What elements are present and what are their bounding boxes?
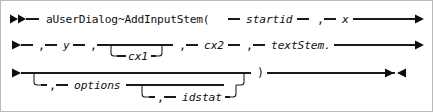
comma-1: , bbox=[317, 12, 324, 26]
options-branch-down-left bbox=[34, 73, 41, 85]
optional-branch-cx1: cx1 bbox=[111, 45, 162, 63]
syntax-diagram-frame: aUserDialog~AddInputStem( startid , x , … bbox=[0, 0, 433, 112]
comma-4: , bbox=[179, 38, 186, 52]
comma-7: , bbox=[157, 90, 164, 104]
optional-param-options: options bbox=[74, 79, 120, 92]
optional-param-idstat: idstat bbox=[182, 91, 222, 104]
row-1-group: aUserDialog~AddInputStem( startid , x bbox=[10, 12, 424, 26]
optional-branch-options: , options , idstat bbox=[34, 73, 244, 104]
optional-param-cx1: cx1 bbox=[128, 50, 148, 63]
param-startid: startid bbox=[246, 13, 293, 26]
close-paren: ) bbox=[257, 66, 264, 80]
param-cx2: cx2 bbox=[204, 39, 224, 52]
cx1-branch-down-left bbox=[111, 45, 117, 56]
row2-start-arrow-icon bbox=[12, 41, 21, 50]
row1-continuation-arrow-icon bbox=[415, 15, 424, 24]
railroad-diagram-canvas: aUserDialog~AddInputStem( startid , x , … bbox=[1, 1, 433, 112]
comma-3: , bbox=[90, 38, 97, 52]
cx1-branch-up-right bbox=[156, 45, 162, 56]
comma-6: , bbox=[49, 78, 56, 92]
keyword-ausedialog-addinputstem: aUserDialog~AddInputStem( bbox=[46, 13, 209, 26]
param-textstem: textStem. bbox=[271, 39, 331, 52]
optional-branch-idstat: , idstat bbox=[142, 85, 236, 104]
row2-continuation-arrow-icon bbox=[415, 41, 424, 50]
param-x: x bbox=[341, 13, 349, 26]
row-2-group: , y , cx1 , cx2 , textStem. bbox=[12, 38, 424, 63]
idstat-branch-down-left bbox=[142, 85, 149, 97]
comma-5: , bbox=[246, 38, 253, 52]
end-marker-terminator bbox=[385, 69, 406, 78]
options-branch-up-right bbox=[236, 73, 244, 85]
row-3-group: , options , idstat bbox=[12, 66, 406, 104]
comma-2: , bbox=[38, 38, 45, 52]
param-y: y bbox=[62, 39, 70, 52]
idstat-branch-up-right bbox=[230, 85, 236, 97]
row3-start-arrow-icon bbox=[12, 69, 21, 78]
start-marker-double-arrow bbox=[10, 15, 26, 24]
